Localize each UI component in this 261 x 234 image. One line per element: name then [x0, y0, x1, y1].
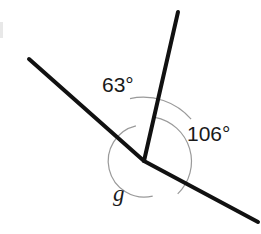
ray-upper	[144, 12, 178, 161]
geometry-diagram-canvas: 63° 106° g	[0, 0, 261, 234]
arc-63-degrees	[130, 97, 191, 119]
ray-lower-right	[144, 161, 258, 222]
angle-figure	[0, 0, 261, 234]
angle-label-g: g	[113, 182, 125, 205]
angle-label-106: 106°	[187, 123, 230, 144]
angle-label-63: 63°	[102, 74, 134, 95]
